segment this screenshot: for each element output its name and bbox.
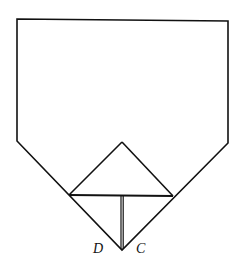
label-d: D: [93, 242, 103, 256]
triangle-left-side: [69, 142, 122, 195]
triangle-base: [69, 195, 173, 196]
outer-pentagon: [17, 19, 228, 250]
label-c: C: [136, 242, 145, 256]
triangle-right-side: [122, 142, 173, 196]
folding-diagram: [0, 0, 234, 266]
